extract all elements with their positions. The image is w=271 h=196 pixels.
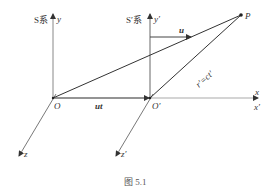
x-axis-label: x bbox=[254, 87, 259, 97]
origin-o-prime-dot bbox=[149, 97, 151, 99]
s-y-label: y bbox=[56, 14, 61, 24]
velocity-label: u bbox=[179, 25, 184, 35]
distance-label: r′=ct′ bbox=[194, 68, 216, 90]
origin-o-label: O bbox=[54, 101, 61, 111]
s-z-label: z bbox=[23, 149, 28, 159]
s-prime-y-label: y′ bbox=[153, 14, 161, 24]
ut-label: ut bbox=[95, 101, 103, 111]
s-z-axis bbox=[19, 94, 56, 156]
s-frame-label: S系 bbox=[34, 15, 48, 25]
point-p-label: P bbox=[244, 11, 251, 21]
origin-o-prime-label: O′ bbox=[152, 101, 161, 111]
origin-o-dot bbox=[52, 97, 54, 99]
line-o-to-p bbox=[53, 15, 241, 98]
s-prime-z-label: z′ bbox=[120, 149, 128, 159]
s-prime-frame-label: S′系 bbox=[126, 15, 142, 25]
relativity-frames-diagram: S系 y S′系 y′ u P r′=ct′ x x′ O ut O′ z z′… bbox=[0, 0, 271, 196]
point-p bbox=[239, 13, 243, 17]
figure-caption: 图 5.1 bbox=[124, 177, 147, 187]
s-prime-z-axis bbox=[116, 94, 153, 156]
x-prime-axis-label: x′ bbox=[253, 102, 261, 112]
